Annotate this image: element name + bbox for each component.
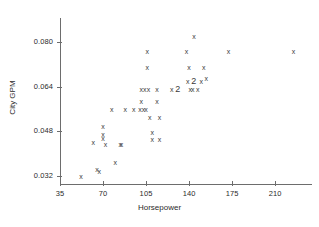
scatter-chart: 0.0320.0480.0640.080 3570105140175210 Ci… — [0, 0, 319, 227]
data-point-marker: x — [148, 114, 152, 121]
data-point-count-label: 2 — [191, 77, 196, 86]
data-point-marker: x — [292, 47, 296, 54]
data-point-marker: x — [101, 123, 105, 130]
data-point-marker: x — [123, 105, 127, 112]
data-point-marker: x — [192, 32, 196, 39]
data-point-marker: x — [146, 47, 150, 54]
data-point-marker: x — [110, 105, 114, 112]
data-point-marker: x — [155, 98, 159, 105]
data-point-marker: x — [147, 86, 151, 93]
data-point-marker: x — [120, 140, 124, 147]
data-point-marker: x — [186, 78, 190, 85]
data-point-marker: x — [155, 86, 159, 93]
data-point-marker: x — [185, 47, 189, 54]
data-point-marker: x — [187, 63, 191, 70]
data-point-marker: x — [200, 78, 204, 85]
plot-area: xxxxxxxxxxxxxxxxxxxxxxxxxxxxxxx2xxx2xxxx… — [0, 0, 319, 227]
data-point-marker: x — [227, 47, 231, 54]
data-point-marker: x — [205, 75, 209, 82]
data-point-marker: x — [132, 105, 136, 112]
data-point-marker: x — [146, 63, 150, 70]
data-point-marker: x — [98, 167, 102, 174]
data-point-marker: x — [139, 98, 143, 105]
data-point-marker: x — [144, 105, 148, 112]
data-point-marker: x — [158, 114, 162, 121]
data-point-count-label: 2 — [175, 85, 180, 94]
data-point-marker: x — [79, 172, 83, 179]
data-point-marker: x — [158, 136, 162, 143]
data-point-marker: x — [150, 136, 154, 143]
data-point-marker: x — [150, 128, 154, 135]
data-point-marker: x — [114, 159, 118, 166]
data-point-marker: x — [170, 86, 174, 93]
data-point-marker: x — [191, 86, 195, 93]
data-point-marker: x — [196, 86, 200, 93]
data-point-marker: x — [104, 140, 108, 147]
data-point-marker: x — [91, 139, 95, 146]
data-point-marker: x — [202, 63, 206, 70]
